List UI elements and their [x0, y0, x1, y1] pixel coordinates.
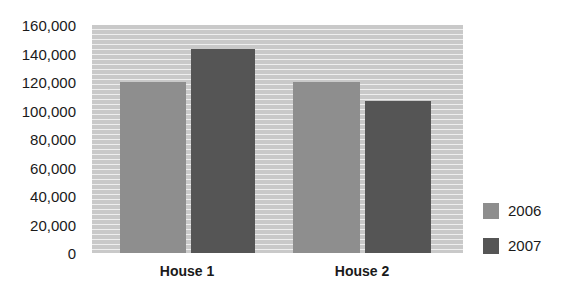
- y-tick-label: 80,000: [30, 131, 76, 148]
- y-tick-label: 60,000: [30, 159, 76, 176]
- legend-item-2007: 2007: [483, 237, 541, 254]
- y-tick-label: 120,000: [22, 74, 76, 91]
- y-tick-label: 20,000: [30, 216, 76, 233]
- y-tick-label: 0: [68, 245, 76, 262]
- x-tick-label: House 1: [127, 263, 247, 279]
- legend-swatch-2007: [483, 238, 499, 254]
- plot-area: [92, 25, 463, 253]
- bar-house1-2006: [120, 82, 186, 253]
- bar-house1-2007: [191, 49, 255, 253]
- y-tick-label: 160,000: [22, 17, 76, 34]
- legend-label: 2006: [508, 202, 541, 219]
- x-tick-label: House 2: [302, 263, 422, 279]
- y-tick-label: 100,000: [22, 102, 76, 119]
- legend-swatch-2006: [483, 203, 499, 219]
- bar-house2-2007: [365, 101, 431, 253]
- bar-house2-2006: [293, 82, 360, 253]
- y-tick-label: 40,000: [30, 188, 76, 205]
- legend-label: 2007: [508, 237, 541, 254]
- y-tick-label: 140,000: [22, 45, 76, 62]
- legend-item-2006: 2006: [483, 202, 541, 219]
